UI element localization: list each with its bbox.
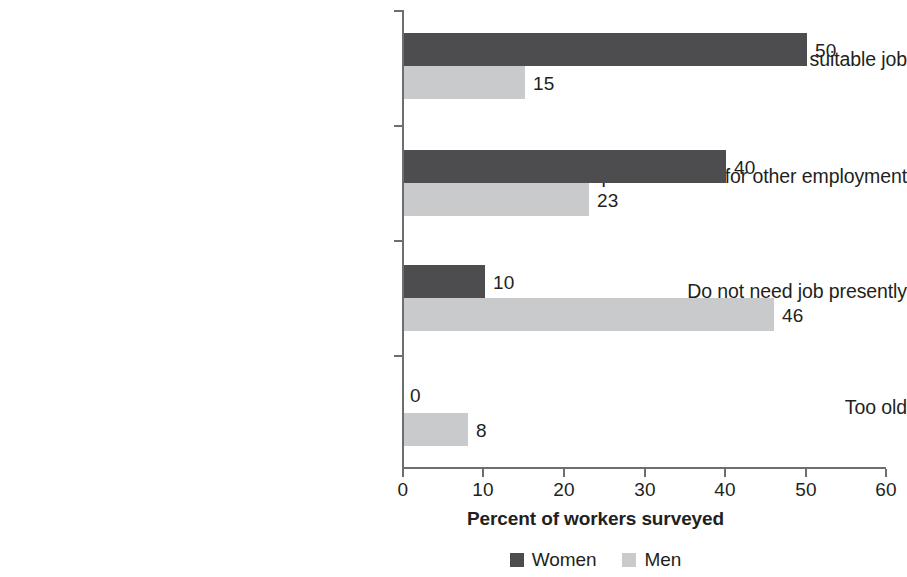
x-axis-tick-label: 10 xyxy=(472,479,494,501)
y-axis-tick xyxy=(394,125,403,127)
bar-women-2 xyxy=(404,265,485,298)
x-axis-tick-label: 20 xyxy=(553,479,575,501)
bar-value-men-2: 46 xyxy=(782,305,804,327)
bar-men-3 xyxy=(404,413,468,446)
x-axis-title: Percent of workers surveyed xyxy=(0,508,907,530)
y-axis-tick xyxy=(394,10,403,12)
x-axis-tick-label: 40 xyxy=(714,479,736,501)
x-axis-tick-label: 0 xyxy=(398,479,409,501)
x-axis-tick xyxy=(482,469,484,477)
bar-women-0 xyxy=(404,33,807,66)
bar-men-0 xyxy=(404,66,525,99)
x-axis-tick-label: 60 xyxy=(875,479,897,501)
x-axis-tick xyxy=(805,469,807,477)
bar-value-women-3: 0 xyxy=(410,385,421,407)
x-axis-tick xyxy=(563,469,565,477)
x-axis-tick xyxy=(724,469,726,477)
x-axis-tick-label: 50 xyxy=(795,479,817,501)
x-axis-title-text: Percent of workers surveyed xyxy=(467,508,724,529)
legend-swatch-women-icon xyxy=(510,553,524,567)
bar-value-women-2: 10 xyxy=(493,272,515,294)
y-axis-tick xyxy=(394,355,403,357)
bar-value-men-3: 8 xyxy=(476,420,487,442)
legend-item-women: Women xyxy=(510,549,597,571)
bar-value-men-0: 15 xyxy=(533,73,555,95)
bar-value-women-0: 50 xyxy=(815,40,837,62)
legend: Women Men xyxy=(0,549,907,571)
y-axis-tick xyxy=(394,240,403,242)
x-axis-tick xyxy=(644,469,646,477)
bar-value-men-1: 23 xyxy=(597,190,619,212)
legend-label-women: Women xyxy=(532,549,597,571)
bar-value-women-1: 40 xyxy=(734,157,756,179)
bar-chart: 0 10 20 30 40 50 60 Do not believe will … xyxy=(0,0,907,577)
bar-men-2 xyxy=(404,298,774,331)
legend-label-men: Men xyxy=(644,549,681,571)
category-label-3: Too old xyxy=(514,396,907,419)
x-axis-tick-label: 30 xyxy=(634,479,656,501)
x-axis-tick xyxy=(885,469,887,477)
bar-men-1 xyxy=(404,183,589,216)
bar-women-1 xyxy=(404,150,726,183)
legend-item-men: Men xyxy=(622,549,681,571)
legend-swatch-men-icon xyxy=(622,553,636,567)
x-axis-tick xyxy=(402,469,404,477)
